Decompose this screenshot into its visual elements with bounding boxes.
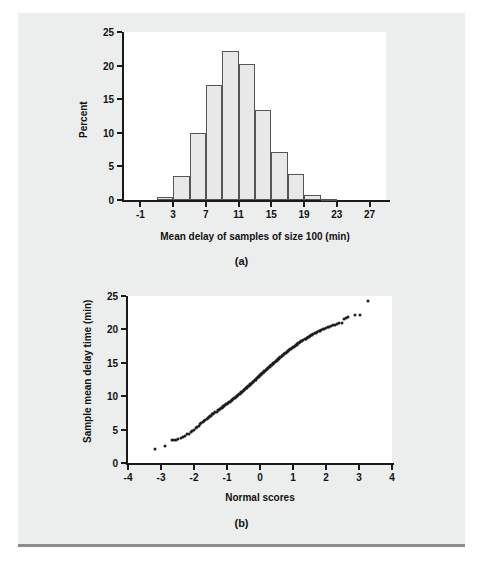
qqplot-x-tick-label: 4 (372, 472, 412, 483)
qqplot-y-axis (126, 296, 128, 465)
qqplot-y-tick-label: 20 (92, 324, 118, 335)
qqplot-data-point (154, 447, 157, 450)
qqplot-y-tick (121, 295, 126, 297)
qqplot-plot-area (128, 296, 392, 463)
qqplot-x-tick (259, 465, 261, 470)
qqplot-x-axis-title: Normal scores (128, 492, 392, 503)
qqplot-data-point (367, 300, 370, 303)
qqplot-y-tick (121, 462, 126, 464)
qqplot-y-tick (121, 328, 126, 330)
qqplot-x-tick (226, 465, 228, 470)
qqplot-y-tick (121, 395, 126, 397)
qqplot-y-tick (121, 429, 126, 431)
qqplot-y-tick-label: 25 (92, 291, 118, 302)
figure-panel-b: 0510152025 -4-3-2-101234 Normal scores S… (0, 0, 483, 562)
qqplot-x-tick (391, 465, 393, 470)
qqplot-x-tick (358, 465, 360, 470)
qqplot-y-tick-label: 10 (92, 391, 118, 402)
qqplot-y-tick-label: 0 (92, 458, 118, 469)
qqplot-data-point (163, 444, 166, 447)
panel-b-caption: (b) (18, 517, 465, 529)
qqplot-x-tick (127, 465, 129, 470)
qqplot-data-point (358, 313, 361, 316)
qqplot-y-tick-label: 5 (92, 424, 118, 435)
qqplot-y-axis-title: Sample mean delay time (min) (82, 299, 93, 442)
qqplot-y-tick (121, 362, 126, 364)
qqplot-x-tick (325, 465, 327, 470)
qqplot-data-point (340, 321, 343, 324)
qqplot-x-tick (193, 465, 195, 470)
qqplot-data-point (347, 315, 350, 318)
qqplot-data-point (354, 314, 357, 317)
qqplot-x-tick (160, 465, 162, 470)
qqplot-y-tick-label: 15 (92, 357, 118, 368)
qqplot-x-tick (292, 465, 294, 470)
